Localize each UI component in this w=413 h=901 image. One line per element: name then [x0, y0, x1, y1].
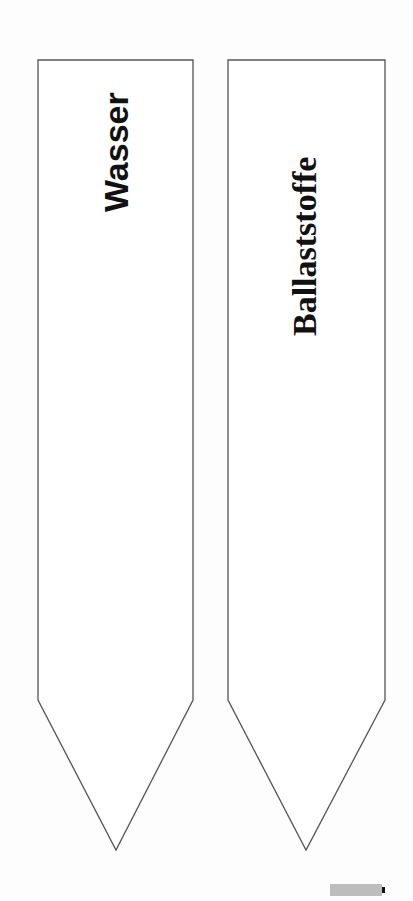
stake-1-label: Wasser [97, 92, 136, 212]
scan-smudge [330, 884, 382, 896]
scan-dot [382, 887, 385, 893]
plant-stakes-outline [0, 0, 413, 901]
stake-2-label: Ballaststoffe [286, 157, 324, 336]
